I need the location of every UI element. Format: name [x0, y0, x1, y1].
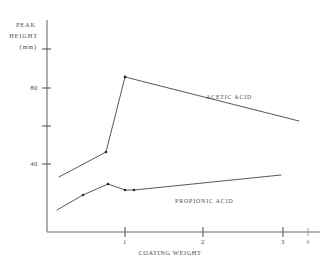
y-tick-label-80: 80	[30, 84, 38, 91]
line-chart-svg: 80 40 PEAK HEIGHT (mm) 1 2 3 4 COATING W…	[0, 0, 326, 270]
data-point-marker	[124, 76, 127, 79]
x-tick-label-4: 4	[306, 238, 310, 245]
x-tick-label-2: 2	[201, 238, 205, 245]
x-tick-label-1: 1	[123, 238, 127, 245]
y-tick-label-40: 40	[30, 160, 38, 167]
series-propionic-acid-line	[57, 175, 281, 210]
series-label-acetic-acid: ACETIC ACID	[206, 94, 252, 100]
y-axis-title-line-1: PEAK	[16, 21, 36, 28]
x-axis-title: COATING WEIGHT	[138, 249, 201, 256]
x-tick-label-3: 3	[281, 238, 285, 245]
y-axis-title-line-3: (mm)	[19, 43, 37, 51]
series-label-propionic-acid: PROPIONIC ACID	[175, 198, 234, 204]
data-point-marker	[105, 151, 108, 154]
data-point-marker	[107, 183, 110, 186]
series-acetic-acid	[59, 76, 299, 177]
series-acetic-acid-line	[59, 77, 299, 177]
y-axis-title: PEAK HEIGHT (mm)	[9, 21, 38, 51]
data-point-marker	[124, 189, 127, 192]
y-axis-title-line-2: HEIGHT	[9, 32, 38, 39]
chart-figure: 80 40 PEAK HEIGHT (mm) 1 2 3 4 COATING W…	[0, 0, 326, 270]
data-point-marker	[82, 194, 85, 197]
series-propionic-acid	[57, 175, 281, 210]
data-point-marker	[133, 189, 136, 192]
